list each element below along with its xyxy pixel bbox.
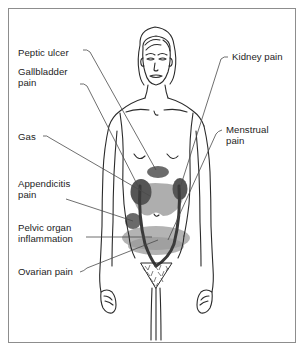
label-ovarian-pain: Ovarian pain xyxy=(18,266,73,277)
mouth xyxy=(150,75,162,78)
label-menstrual-pain-line1: Menstrual xyxy=(226,124,269,135)
clavicle-left xyxy=(126,109,149,112)
neck-right xyxy=(165,85,168,98)
label-appendicitis-pain-line2: pain xyxy=(18,189,36,200)
leader-gallbladder xyxy=(80,84,140,190)
neck-left xyxy=(145,85,148,98)
arm-right-inner xyxy=(196,131,201,266)
peptic-ulcer-zone-shape xyxy=(147,166,169,178)
eye-right xyxy=(159,58,166,60)
clavicle-right xyxy=(164,109,187,112)
nose xyxy=(154,63,158,71)
breast-right xyxy=(167,154,178,159)
arm-left-inner xyxy=(112,131,117,266)
sternal-notch xyxy=(154,111,158,115)
eye-left xyxy=(147,58,154,60)
leg-left xyxy=(151,288,152,340)
label-gas: Gas xyxy=(18,131,36,142)
eyebrow-left xyxy=(146,54,155,56)
label-pelvic-organ-line1: Pelvic organ xyxy=(18,222,71,233)
navel xyxy=(154,214,159,216)
hand-left xyxy=(101,290,116,313)
label-kidney-pain: Kidney pain xyxy=(232,51,283,62)
hand-right xyxy=(197,290,212,313)
diagram-page: Peptic ulcer Gallbladder pain Gas Append… xyxy=(0,0,305,351)
leader-kidney xyxy=(180,57,228,188)
torso-right xyxy=(184,113,193,236)
hair-fringe xyxy=(145,40,170,51)
label-menstrual-pain-line2: pain xyxy=(226,135,244,146)
leader-appendicitis xyxy=(66,199,133,221)
eyebrow-right xyxy=(158,54,167,56)
breast-left xyxy=(134,154,145,159)
label-gallbladder-pain-line2: pain xyxy=(18,77,36,88)
arm-left-outer xyxy=(100,126,109,292)
label-gallbladder-pain-line1: Gallbladder xyxy=(18,66,68,77)
leg-right xyxy=(160,288,161,340)
label-appendicitis-pain-line1: Appendicitis xyxy=(18,178,70,189)
label-pelvic-organ-line2: inflammation xyxy=(18,233,73,244)
label-peptic-ulcer: Peptic ulcer xyxy=(18,47,69,58)
